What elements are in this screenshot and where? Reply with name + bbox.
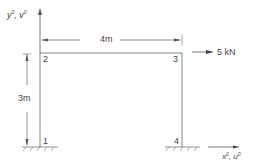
load-label: 5 kN xyxy=(217,48,236,57)
y-axis-label: y0, v0 xyxy=(7,11,27,20)
x-axis-arrow xyxy=(208,146,240,149)
support-left xyxy=(22,147,58,151)
frame-diagram xyxy=(0,0,256,165)
span-dimension-label: 4m xyxy=(100,35,113,44)
load-arrow xyxy=(192,50,214,54)
node-4-label: 4 xyxy=(174,137,179,146)
support-right xyxy=(165,147,200,151)
y-axis-arrow xyxy=(38,8,42,53)
height-dimension-label: 3m xyxy=(18,94,31,103)
node-2-label: 2 xyxy=(43,55,48,64)
frame-members xyxy=(40,53,182,147)
node-3-label: 3 xyxy=(173,55,178,64)
node-1-label: 1 xyxy=(43,137,48,146)
x-axis-label: x0, u0 xyxy=(222,153,240,161)
